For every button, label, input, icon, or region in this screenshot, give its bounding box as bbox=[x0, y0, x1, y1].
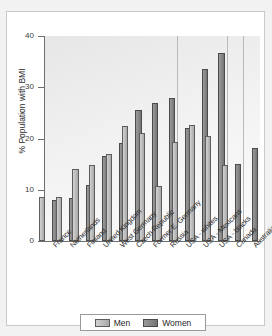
x-axis-labels: FranceNetherlandsFinlandUnited KingdomWe… bbox=[44, 243, 261, 305]
legend: MenWomen bbox=[80, 314, 206, 331]
y-axis-title: % Population with BMI bbox=[17, 46, 27, 176]
y-tick-mark bbox=[38, 241, 45, 242]
legend-swatch-icon bbox=[95, 319, 110, 327]
chart-card: 010203040 % Population with BMI FranceNe… bbox=[6, 11, 265, 326]
bar bbox=[189, 125, 195, 241]
legend-label: Women bbox=[162, 318, 191, 328]
bar bbox=[72, 169, 78, 241]
y-tick-label: 0 bbox=[9, 236, 34, 245]
legend-swatch-icon bbox=[143, 319, 158, 327]
bar bbox=[106, 154, 112, 241]
y-tick-label: 10 bbox=[9, 185, 34, 194]
y-tick-label: 40 bbox=[9, 31, 34, 40]
legend-entry: Men bbox=[95, 318, 131, 328]
legend-entry: Women bbox=[143, 318, 191, 328]
bar bbox=[39, 197, 45, 241]
legend-label: Men bbox=[114, 318, 131, 328]
figure-root: 010203040 % Population with BMI FranceNe… bbox=[0, 0, 272, 336]
